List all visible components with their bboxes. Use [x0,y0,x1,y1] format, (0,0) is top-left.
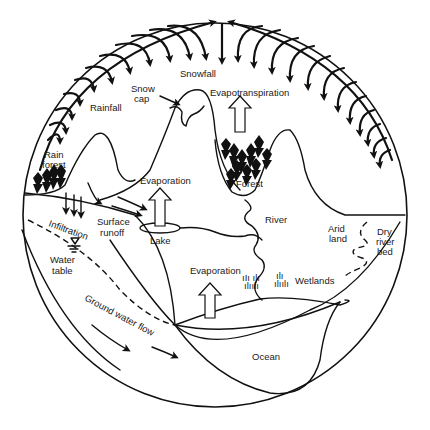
infiltration-arrows [66,193,81,216]
label-evaporation-ocean: Evaporation [190,265,241,276]
label-ground-water-flow: Ground water flow [83,292,156,338]
precipitation-arrows-left [40,22,214,170]
ocean-evaporation-arrow[interactable] [199,283,221,318]
snow-cap-pointer [160,96,178,104]
ground-water-flow-arrow-1 [92,325,128,350]
evapotranspiration-arrow[interactable] [229,96,251,132]
label-surface-runoff-2: runoff [100,227,124,238]
lake-outflow [180,228,262,241]
svg-text:ılıılı: ılıılı [274,278,289,289]
label-forest: Forest [236,178,263,189]
hydrologic-cycle-diagram: ıIı ılı ılıılı ılı ılıılı Snowfall Snow … [0,0,430,430]
label-dry-river-bed-3: bed [377,246,393,257]
label-arid-land-2: land [329,233,347,244]
label-surface-runoff-1: Surface [97,216,130,227]
deep-ground-line [22,230,120,370]
label-rainfall: Rainfall [90,102,122,113]
label-evapotranspiration: Evapotranspiration [210,87,289,98]
label-lake: Lake [150,235,171,246]
label-river: River [265,214,287,225]
label-water-table-2: table [52,265,73,276]
dry-river-bed [345,222,367,276]
label-infiltration: Infiltration [47,218,89,242]
label-water-table-1: Water [50,254,75,265]
wetland-reeds-icon: ıIı ılı ılıılı ılı ılıılı [242,270,289,291]
water-table-symbol [68,238,80,252]
label-rain-forest-2: forest [42,159,66,170]
label-ocean: Ocean [252,351,280,362]
label-snow-cap-2: cap [134,93,149,104]
svg-text:ılıılı: ılıılı [244,280,259,291]
lake-evaporation-arrow[interactable] [149,188,171,226]
label-snowfall: Snowfall [180,68,216,79]
label-wetlands: Wetlands [295,275,335,286]
river-bed-line [175,298,349,325]
ground-water-flow-arrow-2 [152,347,176,357]
label-evaporation-lake: Evaporation [140,175,191,186]
